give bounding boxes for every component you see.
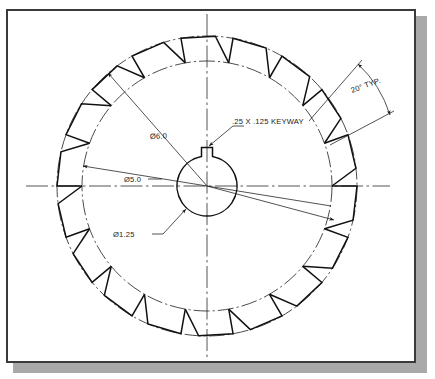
ratchet-tooth <box>57 143 90 186</box>
ratchet-tooth <box>181 36 229 63</box>
dim-outer-leader-lower <box>207 186 334 220</box>
dim-root-line-left <box>83 166 207 186</box>
drawing-stage: Ø6.0 Ø5.0 Ø1.25 .25 X .125 KEYWAY <box>0 0 435 379</box>
ratchet-tooth <box>303 90 341 144</box>
ratchet-tooth <box>92 66 144 106</box>
label-keyway: .25 X .125 KEYWAY <box>232 117 304 126</box>
ratchet-tooth <box>104 266 144 316</box>
dim-root-line-right <box>207 186 331 206</box>
ratchet-tooth <box>145 294 186 333</box>
technical-drawing-canvas: Ø6.0 Ø5.0 Ø1.25 .25 X .125 KEYWAY <box>0 0 435 379</box>
label-root-diameter: Ø5.0 <box>124 175 141 184</box>
ratchet-tooth <box>185 309 233 336</box>
dimension-bore <box>152 209 186 234</box>
ratchet-tooth <box>229 38 270 77</box>
keyway-leader-diag <box>209 126 233 146</box>
dim-outer-leader-upper <box>108 73 207 186</box>
label-bore-diameter: Ø1.25 <box>113 230 135 239</box>
ratchet-tooth <box>66 104 111 143</box>
dimension-outer-diameter <box>108 73 334 220</box>
ratchet-tooth <box>303 229 348 268</box>
dim-bore-leader <box>163 209 186 234</box>
ratchet-tooth <box>132 42 185 77</box>
dimension-tooth-angle <box>309 60 394 145</box>
keyway-callout <box>209 126 244 146</box>
ratchet-tooth <box>270 266 322 306</box>
label-tooth-angle: 20° TYP. <box>350 76 382 95</box>
ratchet-tooth <box>270 56 310 106</box>
label-outer-diameter: Ø6.0 <box>150 131 168 141</box>
ratchet-tooth <box>229 294 282 329</box>
ratchet-tooth <box>73 229 111 283</box>
